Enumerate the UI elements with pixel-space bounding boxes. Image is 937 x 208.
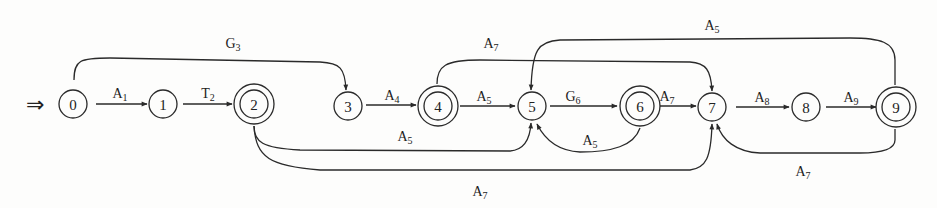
svg-text:7: 7 (708, 100, 716, 116)
state-6-accepting: 6 (620, 86, 660, 126)
edge-3-4: A4 (366, 88, 416, 105)
state-4-accepting: 4 (418, 86, 458, 126)
svg-text:3: 3 (344, 99, 352, 115)
edge-label: A8 (754, 90, 769, 107)
edge-label: A5 (582, 133, 597, 150)
svg-text:4: 4 (434, 99, 442, 115)
state-0: 0 (59, 90, 87, 118)
state-8: 8 (792, 93, 820, 121)
edge-label: A4 (384, 88, 399, 105)
state-3: 3 (334, 92, 362, 120)
edge-7-8: A8 (736, 90, 789, 107)
edge-label: A7 (659, 89, 674, 106)
edge-label: A5 (704, 18, 719, 35)
edge-label: A9 (843, 90, 858, 107)
edge-label: G6 (565, 89, 580, 106)
edge-4-5: A5 (460, 89, 515, 106)
svg-text:6: 6 (636, 99, 644, 115)
edge-8-9: A9 (826, 90, 876, 107)
edge-label: A1 (112, 86, 127, 103)
svg-text:0: 0 (69, 97, 77, 113)
edge-0-1: A1 (96, 86, 147, 104)
state-9-accepting: 9 (876, 87, 916, 127)
edge-5-6: G6 (550, 89, 617, 106)
automaton-diagram: ⇒ A1 T2 A4 A5 G6 A7 A8 A9 G3 A7 (0, 0, 937, 208)
automaton-canvas: ⇒ A1 T2 A4 A5 G6 A7 A8 A9 G3 A7 (0, 0, 937, 208)
start-arrow-icon: ⇒ (26, 92, 44, 117)
state-5: 5 (518, 92, 546, 120)
state-2-accepting: 2 (234, 84, 274, 124)
edge-2-5: A5 (254, 123, 531, 151)
edge-label: A7 (483, 36, 498, 53)
state-1: 1 (149, 90, 177, 118)
edge-label: A7 (795, 164, 810, 181)
edge-label: A7 (472, 184, 487, 201)
svg-text:2: 2 (250, 97, 258, 113)
edge-6-5: A5 (537, 124, 640, 152)
svg-text:1: 1 (159, 97, 167, 113)
edge-9-7: A7 (717, 124, 895, 181)
edge-0-3: G3 (74, 36, 346, 90)
edge-label: A5 (397, 129, 412, 146)
edge-label: G3 (225, 36, 240, 53)
edge-4-7: A7 (437, 36, 712, 91)
svg-text:8: 8 (802, 100, 810, 116)
svg-text:9: 9 (892, 100, 900, 116)
edge-2-7: A7 (254, 124, 712, 201)
state-7: 7 (698, 93, 726, 121)
edge-label: T2 (201, 86, 215, 103)
svg-text:5: 5 (528, 99, 536, 115)
edge-1-2: T2 (183, 86, 232, 104)
edge-label: A5 (476, 89, 491, 106)
edge-9-5: A5 (531, 18, 895, 90)
